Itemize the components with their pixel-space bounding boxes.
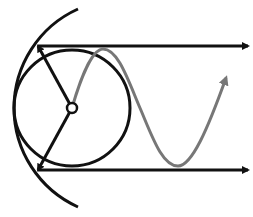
phasor-sine-diagram [0, 0, 253, 217]
center-hub [67, 103, 77, 113]
radius-arrow-up [38, 46, 72, 108]
sine-wave-arrow [72, 49, 226, 166]
radius-arrow-down [38, 108, 72, 170]
